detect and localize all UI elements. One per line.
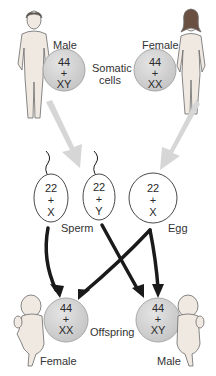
autosome-count: 22 [85,181,113,193]
somatic-cells-label: Somatic cells [92,62,128,86]
somatic-label-line2: cells [92,74,128,86]
offspring-label: Offspring [90,326,134,338]
female-offspring-chromosomes: 44 + XX [52,303,80,336]
male-somatic-chromosomes: 44 + XY [50,57,78,90]
egg-to-female-arrow [82,230,150,294]
arrowhead-female-1 [50,284,64,298]
autosome-count: 22 [37,182,65,194]
sperm-y-tail [94,151,98,177]
autosome-count: 22 [139,182,167,194]
sperm-y-chromosomes: 22 + Y [85,181,113,217]
female-parent-label: Female [142,39,179,51]
sperm-x-to-female-arrow [46,228,56,290]
female-offspring-label: Female [40,355,77,367]
sex-chromosomes: XY [144,325,172,336]
plus-sign: + [37,194,65,206]
adult-female-figure [177,9,205,114]
sperm-x-chromosomes: 22 + X [37,182,65,218]
sex-chromosome: X [37,206,65,218]
plus-sign: + [139,194,167,206]
egg-to-male-arrow [150,230,158,288]
sex-chromosomes: XX [141,79,169,90]
arrowhead-male-2 [152,284,164,298]
male-parent-label: Male [53,39,77,51]
sex-chromosomes: XY [50,79,78,90]
somatic-label-line1: Somatic [92,62,128,74]
arrowhead-male-1 [132,284,144,298]
sperm-x-tail [46,151,50,177]
female-somatic-chromosomes: 44 + XX [141,57,169,90]
sperm-label: Sperm [61,222,93,234]
egg-label: Egg [168,222,188,234]
female-to-egg-arrow [160,100,200,170]
egg-chromosomes: 22 + X [139,182,167,218]
sex-chromosome: X [139,206,167,218]
sex-chromosomes: XX [52,325,80,336]
male-baby-figure [177,295,204,366]
arrowhead-female-2 [78,289,90,300]
male-offspring-chromosomes: 44 + XY [144,303,172,336]
plus-sign: + [85,193,113,205]
male-offspring-label: Male [157,355,181,367]
male-to-sperm-arrow [46,100,82,168]
sex-chromosome: Y [85,205,113,217]
sperm-y-to-male-arrow [102,225,138,290]
